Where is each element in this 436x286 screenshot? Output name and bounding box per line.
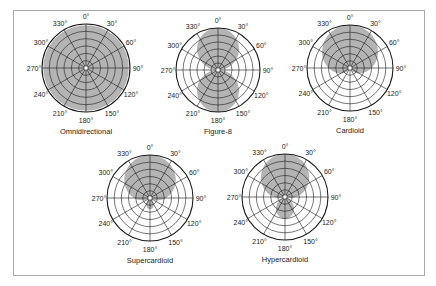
angle-label: 180° (79, 117, 94, 124)
center-circle (84, 66, 88, 70)
angle-label: 270° (27, 65, 42, 72)
angle-label: 30° (170, 150, 181, 157)
angle-label: 90° (133, 65, 144, 72)
angle-label: 180° (343, 116, 358, 123)
angle-label: 120° (187, 220, 202, 227)
polar-plot-supercardioid: 0°30°60°90°120°150°180°210°240°270°300°3… (92, 144, 207, 266)
angle-label: 180° (211, 117, 226, 124)
angle-label: 90° (196, 195, 207, 202)
grid-spoke (113, 199, 148, 219)
angle-label: 120° (322, 219, 337, 226)
polar-plot-omnidirectional: 0°30°60°90°120°150°180°210°240°270°300°3… (27, 13, 144, 137)
angle-label: 210° (117, 239, 132, 246)
grid-spoke (129, 200, 149, 235)
angle-label: 330° (117, 150, 132, 157)
angle-label: 210° (53, 110, 68, 117)
angle-label: 180° (143, 246, 158, 253)
angle-label: 30° (305, 149, 316, 156)
angle-label: 240° (34, 91, 49, 98)
grid-spoke (351, 70, 371, 105)
grid-spoke (152, 199, 187, 219)
angle-label: 300° (34, 39, 49, 46)
angle-label: 240° (299, 90, 314, 97)
angle-label: 90° (263, 67, 274, 74)
angle-label: 300° (167, 42, 182, 49)
angle-label: 60° (126, 39, 137, 46)
grid-spoke (313, 69, 348, 89)
angle-label: 120° (124, 91, 139, 98)
angle-label: 240° (99, 220, 114, 227)
angle-label: 330° (186, 23, 201, 30)
center-circle (348, 66, 352, 70)
center-circle (148, 196, 152, 200)
angle-label: 150° (168, 239, 183, 246)
angle-label: 30° (370, 20, 381, 27)
angle-label: 240° (234, 219, 249, 226)
pattern-caption: Figure-8 (204, 127, 232, 136)
angle-label: 30° (107, 20, 118, 27)
angle-label: 300° (99, 169, 114, 176)
angle-label: 0° (347, 14, 354, 21)
angle-label: 300° (299, 39, 314, 46)
angle-label: 210° (317, 109, 332, 116)
angle-label: 0° (215, 17, 222, 24)
angle-label: 0° (282, 143, 289, 150)
angle-label: 300° (234, 168, 249, 175)
grid-spoke (352, 69, 387, 89)
angle-label: 210° (252, 238, 267, 245)
angle-label: 90° (331, 194, 342, 201)
grid-spoke (151, 200, 171, 235)
angle-label: 270° (292, 65, 307, 72)
angle-label: 180° (278, 245, 293, 252)
angle-label: 0° (147, 144, 154, 151)
angle-label: 60° (389, 39, 400, 46)
polar-plot-figure8: 0°30°60°90°120°150°180°210°240°270°300°3… (161, 17, 274, 137)
angle-label: 120° (387, 90, 402, 97)
angle-label: 330° (252, 149, 267, 156)
angle-label: 150° (368, 109, 383, 116)
pattern-caption: Omnidirectional (60, 127, 112, 136)
angle-label: 60° (324, 168, 335, 175)
angle-label: 270° (227, 194, 242, 201)
pattern-caption: Hypercardioid (262, 255, 308, 264)
angle-label: 210° (186, 110, 201, 117)
center-circle (283, 195, 287, 199)
polar-plot-hypercardioid: 0°30°60°90°120°150°180°210°240°270°300°3… (227, 143, 342, 265)
angle-label: 270° (92, 195, 107, 202)
angle-label: 60° (256, 42, 267, 49)
polar-patterns-diagram: 0°30°60°90°120°150°180°210°240°270°300°3… (0, 0, 436, 286)
angle-label: 60° (189, 169, 200, 176)
angle-label: 150° (236, 110, 251, 117)
angle-label: 330° (317, 20, 332, 27)
angle-label: 120° (254, 92, 269, 99)
polar-plot-cardioid: 0°30°60°90°120°150°180°210°240°270°300°3… (292, 14, 407, 136)
angle-label: 150° (303, 238, 318, 245)
pattern-caption: Supercardioid (127, 256, 173, 265)
center-circle (216, 68, 220, 72)
angle-label: 30° (238, 23, 249, 30)
angle-label: 0° (83, 13, 90, 20)
pattern-caption: Cardioid (336, 126, 364, 135)
angle-label: 90° (396, 65, 407, 72)
grid-spoke (329, 70, 349, 105)
angle-label: 150° (105, 110, 120, 117)
angle-label: 240° (167, 92, 182, 99)
angle-label: 330° (53, 20, 68, 27)
angle-label: 270° (161, 67, 176, 74)
